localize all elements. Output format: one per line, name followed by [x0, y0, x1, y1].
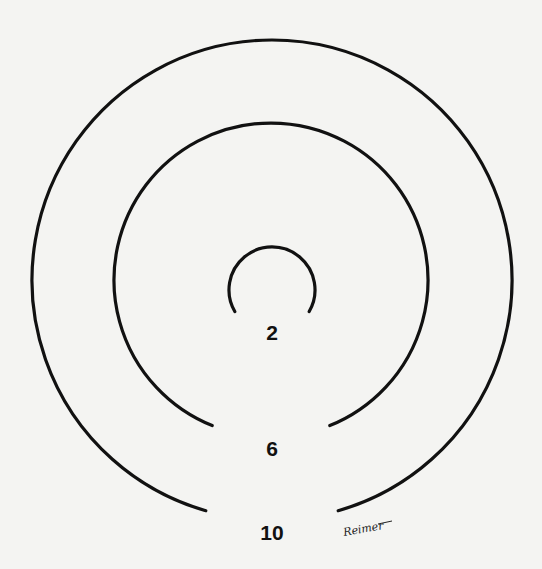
ring-2 [229, 247, 315, 312]
ring-6 [114, 123, 428, 426]
ring-label-2: 2 [266, 321, 278, 344]
signature-text: Reimer [341, 519, 385, 539]
ring-label-6: 6 [266, 437, 278, 460]
concentric-rings-diagram: 2 6 10 Reimer [0, 0, 542, 569]
ring-label-10: 10 [260, 521, 283, 544]
signature: Reimer [341, 519, 392, 539]
